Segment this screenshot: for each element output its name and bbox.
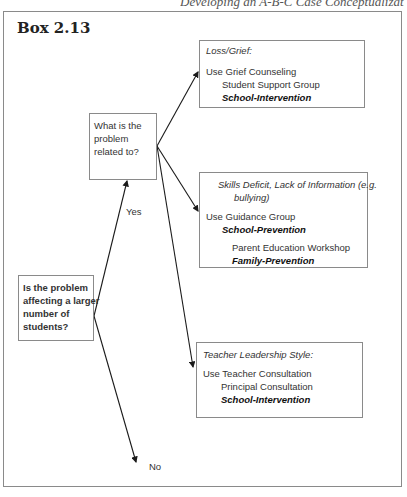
teacher-arrow xyxy=(157,146,193,367)
question-node: What is the problem related to? xyxy=(89,113,157,180)
start-node-line: students? xyxy=(23,320,89,333)
loss-grief-line: Use Grief Counseling xyxy=(206,65,358,78)
teacher-leadership-node: Teacher Leadership Style: Use Teacher Co… xyxy=(196,342,363,418)
skills-arrow xyxy=(157,146,198,211)
question-node-line: What is the xyxy=(94,119,152,132)
skills-deficit-node: Skills Deficit, Lack of Information (e.g… xyxy=(199,172,368,268)
start-node-line: number of xyxy=(23,307,89,320)
question-node-line: problem xyxy=(94,132,152,145)
loss-arrow xyxy=(157,72,198,146)
teacher-leadership-line: Use Teacher Consultation xyxy=(203,367,356,380)
teacher-leadership-type: School-Intervention xyxy=(203,393,356,406)
skills-deficit-type: School-Prevention xyxy=(206,223,361,236)
skills-deficit-heading: Skills Deficit, Lack of Information (e.g… xyxy=(206,178,361,191)
loss-grief-node: Loss/Grief: Use Grief Counseling Student… xyxy=(199,40,365,108)
loss-grief-heading: Loss/Grief: xyxy=(206,44,358,57)
skills-deficit-line: Use Guidance Group xyxy=(206,210,361,223)
question-node-line: related to? xyxy=(94,145,152,158)
no-arrow xyxy=(94,316,136,462)
skills-deficit-line: Parent Education Workshop xyxy=(206,241,361,254)
teacher-leadership-heading: Teacher Leadership Style: xyxy=(203,348,356,361)
no-label: No xyxy=(149,461,161,472)
loss-grief-line: Student Support Group xyxy=(206,78,358,91)
start-node-line: affecting a larger xyxy=(23,294,89,307)
skills-deficit-type: Family-Prevention xyxy=(206,254,361,267)
teacher-leadership-line: Principal Consultation xyxy=(203,380,356,393)
loss-grief-type: School-Intervention xyxy=(206,91,358,104)
start-node: Is the problem affecting a larger number… xyxy=(18,275,94,341)
skills-deficit-heading: bullying) xyxy=(206,191,361,204)
yes-label: Yes xyxy=(126,206,142,217)
start-node-line: Is the problem xyxy=(23,281,89,294)
